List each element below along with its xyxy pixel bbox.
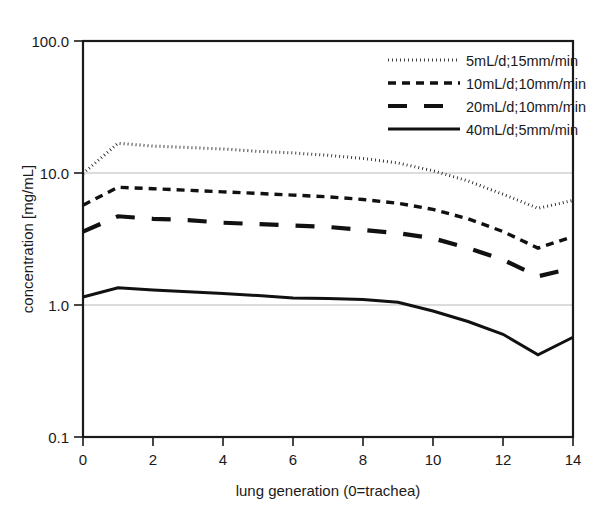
x-axis-title: lung generation (0=trachea): [236, 482, 421, 499]
x-tick-label-12: 12: [495, 451, 512, 468]
x-tick-label-10: 10: [425, 451, 442, 468]
y-tick-label-1: 1.0: [48, 297, 69, 314]
y-axis-title: concentration [mg/mL]: [19, 165, 36, 313]
y-tick-label-100: 100.0: [31, 33, 69, 50]
x-tick-label-6: 6: [289, 451, 297, 468]
legend-label-1: 5mL/d;15mm/min: [466, 53, 578, 69]
x-tick-label-14: 14: [565, 451, 582, 468]
legend-label-4: 40mL/d;5mm/min: [466, 122, 578, 138]
x-tick-label-8: 8: [359, 451, 367, 468]
x-tick-label-2: 2: [149, 451, 157, 468]
x-tick-label-4: 4: [219, 451, 227, 468]
y-tick-label-10: 10.0: [40, 165, 69, 182]
legend-label-3: 20mL/d;10mm/min: [466, 99, 586, 115]
concentration-vs-lung-generation-chart: 100.0 10.0 1.0 0.1 0 2 4 6 8 10 12 14: [0, 0, 612, 512]
legend-label-2: 10mL/d;10mm/min: [466, 76, 586, 92]
y-tick-label-0.1: 0.1: [48, 429, 69, 446]
x-tick-label-0: 0: [79, 451, 87, 468]
chart-figure: 100.0 10.0 1.0 0.1 0 2 4 6 8 10 12 14: [0, 0, 612, 512]
